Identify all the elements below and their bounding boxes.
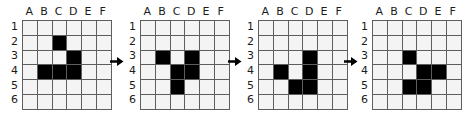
cell-A6[interactable] [23, 95, 37, 109]
cell-A6[interactable] [259, 95, 273, 109]
cell-D3[interactable] [303, 51, 317, 65]
cell-B3[interactable] [274, 51, 288, 65]
cell-B4[interactable] [388, 65, 402, 79]
cell-B3[interactable] [156, 51, 170, 65]
cell-E2[interactable] [432, 36, 446, 50]
cell-C4[interactable] [171, 65, 185, 79]
cell-F1[interactable] [333, 21, 347, 35]
cell-C5[interactable] [53, 80, 67, 94]
cell-F2[interactable] [97, 36, 111, 50]
cell-C3[interactable] [53, 51, 67, 65]
cell-E5[interactable] [318, 80, 332, 94]
cell-C2[interactable] [171, 36, 185, 50]
cell-B5[interactable] [388, 80, 402, 94]
cell-F1[interactable] [447, 21, 461, 35]
cell-C3[interactable] [171, 51, 185, 65]
cell-D5[interactable] [303, 80, 317, 94]
cell-A3[interactable] [141, 51, 155, 65]
cell-B6[interactable] [274, 95, 288, 109]
cell-C5[interactable] [171, 80, 185, 94]
cell-C1[interactable] [403, 21, 417, 35]
cell-A4[interactable] [259, 65, 273, 79]
cell-D6[interactable] [417, 95, 431, 109]
cell-B4[interactable] [156, 65, 170, 79]
cell-D2[interactable] [417, 36, 431, 50]
cell-A5[interactable] [141, 80, 155, 94]
cell-D5[interactable] [417, 80, 431, 94]
cell-D2[interactable] [67, 36, 81, 50]
cell-E3[interactable] [318, 51, 332, 65]
cell-F4[interactable] [447, 65, 461, 79]
cell-E6[interactable] [82, 95, 96, 109]
cell-C6[interactable] [53, 95, 67, 109]
cell-A1[interactable] [259, 21, 273, 35]
cell-E1[interactable] [82, 21, 96, 35]
cell-C5[interactable] [403, 80, 417, 94]
cell-D4[interactable] [417, 65, 431, 79]
cell-C3[interactable] [403, 51, 417, 65]
cell-A2[interactable] [373, 36, 387, 50]
cell-E3[interactable] [200, 51, 214, 65]
cell-B6[interactable] [38, 95, 52, 109]
cell-F5[interactable] [97, 80, 111, 94]
cell-D1[interactable] [303, 21, 317, 35]
cell-E4[interactable] [432, 65, 446, 79]
cell-C4[interactable] [289, 65, 303, 79]
cell-A3[interactable] [23, 51, 37, 65]
cell-E1[interactable] [432, 21, 446, 35]
cell-C2[interactable] [403, 36, 417, 50]
cell-F4[interactable] [215, 65, 229, 79]
cell-C1[interactable] [289, 21, 303, 35]
cell-D5[interactable] [185, 80, 199, 94]
cell-C6[interactable] [403, 95, 417, 109]
cell-D1[interactable] [67, 21, 81, 35]
cell-D2[interactable] [303, 36, 317, 50]
cell-B4[interactable] [38, 65, 52, 79]
cell-F4[interactable] [97, 65, 111, 79]
cell-C3[interactable] [289, 51, 303, 65]
cell-F2[interactable] [447, 36, 461, 50]
cell-E6[interactable] [432, 95, 446, 109]
cell-D3[interactable] [185, 51, 199, 65]
cell-C2[interactable] [53, 36, 67, 50]
cell-F5[interactable] [215, 80, 229, 94]
cell-E2[interactable] [82, 36, 96, 50]
cell-E1[interactable] [200, 21, 214, 35]
cell-A3[interactable] [259, 51, 273, 65]
cell-F6[interactable] [97, 95, 111, 109]
cell-F1[interactable] [97, 21, 111, 35]
cell-D4[interactable] [303, 65, 317, 79]
cell-F1[interactable] [215, 21, 229, 35]
cell-D6[interactable] [185, 95, 199, 109]
cell-D1[interactable] [185, 21, 199, 35]
cell-B1[interactable] [274, 21, 288, 35]
cell-B1[interactable] [388, 21, 402, 35]
cell-F3[interactable] [97, 51, 111, 65]
cell-C4[interactable] [53, 65, 67, 79]
cell-C1[interactable] [171, 21, 185, 35]
cell-E4[interactable] [82, 65, 96, 79]
cell-B5[interactable] [38, 80, 52, 94]
cell-F2[interactable] [333, 36, 347, 50]
cell-D4[interactable] [185, 65, 199, 79]
cell-F3[interactable] [447, 51, 461, 65]
cell-F3[interactable] [215, 51, 229, 65]
cell-C6[interactable] [289, 95, 303, 109]
cell-B2[interactable] [38, 36, 52, 50]
cell-B1[interactable] [156, 21, 170, 35]
cell-D3[interactable] [417, 51, 431, 65]
cell-B4[interactable] [274, 65, 288, 79]
cell-F2[interactable] [215, 36, 229, 50]
cell-C5[interactable] [289, 80, 303, 94]
cell-E3[interactable] [82, 51, 96, 65]
cell-B3[interactable] [388, 51, 402, 65]
cell-F6[interactable] [215, 95, 229, 109]
cell-E6[interactable] [200, 95, 214, 109]
cell-A5[interactable] [23, 80, 37, 94]
cell-A4[interactable] [141, 65, 155, 79]
cell-E2[interactable] [200, 36, 214, 50]
cell-A5[interactable] [373, 80, 387, 94]
cell-B2[interactable] [388, 36, 402, 50]
cell-F6[interactable] [447, 95, 461, 109]
cell-A6[interactable] [141, 95, 155, 109]
